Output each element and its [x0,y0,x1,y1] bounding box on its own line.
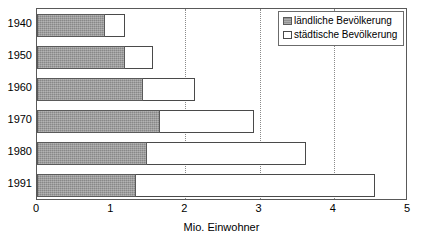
y-axis-label-1950: 1950 [0,50,32,61]
x-axis-tick-0: 0 [21,203,51,214]
x-axis-tick-3: 3 [244,203,274,214]
bar-row [37,14,125,37]
y-axis-label-1960: 1960 [0,82,32,93]
y-axis-label-1940: 1940 [0,18,32,29]
legend-item-rural: ländliche Bevölkerung [283,15,399,27]
bar-segment-urban [105,14,125,37]
x-axis-tick-5: 5 [392,203,421,214]
legend-swatch-rural-icon [283,17,292,25]
legend-swatch-urban-icon [283,31,292,39]
x-axis-title: Mio. Einwohner [36,222,407,233]
population-bar-chart: 194019501960197019801991 012345 Mio. Ein… [0,0,421,238]
y-axis-label-1980: 1980 [0,146,32,157]
legend-label-rural: ländliche Bevölkerung [294,16,392,26]
bar-segment-rural [37,78,143,101]
bar-segment-urban [147,142,306,165]
bar-row [37,110,254,133]
bar-row [37,174,375,197]
x-axis-tick-2: 2 [169,203,199,214]
bar-segment-rural [37,14,105,37]
x-axis-tick-1: 1 [95,203,125,214]
bar-segment-rural [37,46,125,69]
bar-segment-urban [143,78,195,101]
bar-row [37,46,153,69]
y-axis-label-1970: 1970 [0,114,32,125]
bar-row [37,78,195,101]
chart-legend: ländliche Bevölkerung städtische Bevölke… [278,11,404,46]
bar-segment-urban [160,110,253,133]
legend-item-urban: städtische Bevölkerung [283,29,399,41]
bar-row [37,142,306,165]
x-axis-tick-4: 4 [318,203,348,214]
legend-label-urban: städtische Bevölkerung [294,30,397,40]
y-axis-label-1991: 1991 [0,178,32,189]
bar-segment-rural [37,110,160,133]
bar-segment-urban [136,174,375,197]
bar-segment-urban [125,46,153,69]
bar-segment-rural [37,174,136,197]
bar-segment-rural [37,142,147,165]
